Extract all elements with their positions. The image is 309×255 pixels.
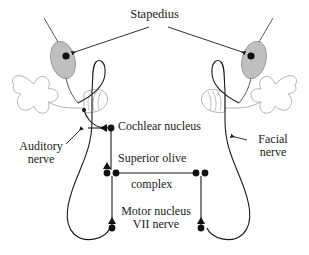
auditory-nerve-label-line2: nerve bbox=[6, 153, 76, 166]
left-stapedius-muscle bbox=[47, 39, 79, 82]
facial-nerve-label-line1: Facial bbox=[244, 133, 302, 146]
stapedius-label: Stapedius bbox=[0, 8, 309, 22]
left-motor-nucleus-dot bbox=[109, 225, 116, 232]
right-stapedius-terminal-dot bbox=[247, 52, 254, 59]
right-motor-nucleus-dot bbox=[198, 225, 205, 232]
left-superior-olive-arrowhead bbox=[103, 162, 111, 169]
left-cochlea-rib-1 bbox=[88, 91, 92, 110]
left-cochlear-nucleus-arrowhead bbox=[100, 124, 107, 132]
left-superior-olive-dot-b bbox=[113, 170, 120, 177]
left-superior-olive-dot-a bbox=[104, 170, 111, 177]
right-ear-group bbox=[201, 18, 296, 113]
auditory-nerve-label: Auditory nerve bbox=[6, 140, 76, 166]
right-cochlea-rib-2 bbox=[212, 91, 216, 111]
left-stapedius-terminal-dot bbox=[62, 52, 69, 59]
motor-nucleus-label: Motor nucleus VII nerve bbox=[118, 205, 194, 231]
right-stapedius-muscle bbox=[238, 39, 270, 82]
left-motor-nucleus-arrowhead bbox=[108, 217, 116, 224]
right-cochlea-rib-3 bbox=[208, 92, 211, 110]
auditory-nerve-label-line1: Auditory bbox=[6, 140, 76, 153]
cochlear-nucleus-label: Cochlear nucleus bbox=[118, 120, 201, 133]
left-ear-group bbox=[12, 18, 107, 113]
stapedius-leader-right bbox=[168, 27, 245, 53]
facial-nerve-label: Facial nerve bbox=[244, 133, 302, 159]
motor-nucleus-label-line2: VII nerve bbox=[118, 218, 194, 231]
right-stapedius-tendon bbox=[239, 78, 251, 103]
left-cochlear-nucleus-dot bbox=[108, 125, 115, 132]
right-ear-canal-outline bbox=[225, 102, 261, 108]
superior-olive-complex-label: complex bbox=[131, 178, 172, 191]
right-superior-olive-dot-a bbox=[193, 170, 200, 177]
right-cochlea-rib-1 bbox=[217, 91, 221, 110]
right-pinna-outline bbox=[251, 76, 297, 114]
right-superior-olive-dot-b bbox=[202, 170, 209, 177]
motor-nucleus-label-line1: Motor nucleus bbox=[118, 205, 194, 218]
left-pinna-outline bbox=[12, 76, 58, 114]
superior-olive-label: Superior olive bbox=[118, 152, 186, 165]
facial-nerve-label-line2: nerve bbox=[244, 146, 302, 159]
stapedius-reflex-diagram: Stapedius Cochlear nucleus Auditory nerv… bbox=[0, 0, 309, 255]
right-motor-nucleus-arrowhead bbox=[197, 217, 205, 224]
right-ossicle-strut bbox=[259, 18, 273, 42]
left-cochlea-rib-3 bbox=[98, 92, 101, 110]
left-ossicle-strut bbox=[44, 18, 58, 42]
stapedius-leader-left bbox=[72, 27, 149, 53]
left-cochlea-rib-2 bbox=[93, 91, 97, 111]
left-stapedius-tendon bbox=[66, 78, 78, 103]
